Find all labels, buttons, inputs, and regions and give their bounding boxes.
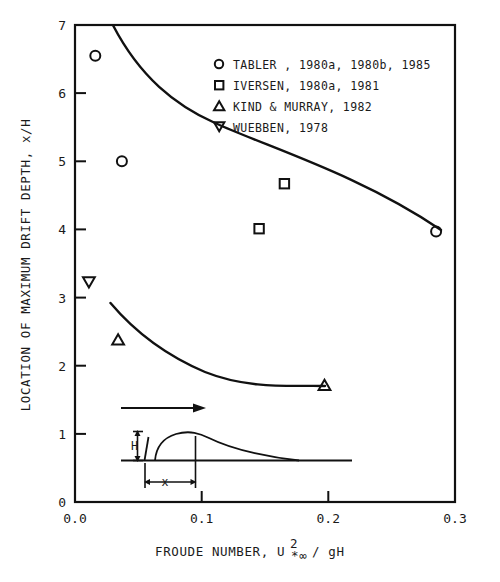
x-tick-label: 0.0	[63, 511, 86, 526]
x-axis-title-subscript: *∞	[291, 548, 307, 563]
y-tick-label: 6	[58, 86, 66, 101]
legend-label: IVERSEN, 1980a, 1981	[233, 79, 379, 93]
y-tick-label: 4	[58, 222, 66, 237]
x-axis-title-prefix: FROUDE NUMBER, U	[155, 544, 285, 559]
y-tick-label: 1	[58, 427, 66, 442]
inset-distance-label: x	[162, 475, 169, 489]
legend-label: WUEBBEN, 1978	[233, 121, 328, 135]
y-tick-labels: 0 1 2 3 4 5 6 7	[58, 18, 66, 510]
wind-arrow-head	[193, 404, 206, 413]
inset-drift-schematic: H x	[121, 404, 352, 490]
legend: TABLER , 1980a, 1980b, 1985 IVERSEN, 198…	[214, 58, 431, 135]
x-axis-title-suffix: / gH	[312, 544, 345, 559]
y-axis-title: LOCATION OF MAXIMUM DRIFT DEPTH, x/H	[18, 119, 33, 412]
y-tick-label: 7	[58, 18, 66, 33]
x-tick-label: 0.2	[317, 511, 340, 526]
legend-symbol-circle	[215, 60, 223, 68]
data-point-triangle-down	[83, 277, 95, 287]
drift-profile	[155, 432, 299, 460]
y-tick-label: 2	[58, 359, 66, 374]
data-point-square	[280, 179, 289, 188]
legend-symbol-square	[215, 81, 223, 89]
x-tick-label: 0.1	[190, 511, 213, 526]
data-point-circle	[90, 51, 100, 61]
legend-label: TABLER , 1980a, 1980b, 1985	[233, 58, 431, 72]
y-axis-ticks	[75, 25, 86, 502]
y-tick-label: 0	[58, 495, 66, 510]
legend-symbol-triangle-up	[214, 101, 224, 110]
data-point-circle	[117, 156, 127, 166]
plot-frame	[75, 25, 455, 502]
trend-curve-lower	[111, 303, 326, 386]
legend-label: KIND & MURRAY, 1982	[233, 100, 372, 114]
x-tick-label: 0.3	[443, 511, 466, 526]
chart-svg: 0 1 2 3 4 5 6 7 0.0 0.1 0.2 0.3 LOCATION…	[0, 0, 500, 582]
data-point-triangle-up	[112, 334, 124, 344]
x-tick-labels: 0.0 0.1 0.2 0.3	[63, 511, 466, 526]
x-axis-title: FROUDE NUMBER, U 2 *∞ / gH	[155, 536, 345, 563]
inset-height-label: H	[131, 439, 138, 453]
barrier	[145, 437, 149, 461]
x-axis-ticks	[75, 491, 455, 502]
y-tick-label: 3	[58, 291, 66, 306]
data-point-square	[254, 224, 263, 233]
figure-snow-drift-location: 0 1 2 3 4 5 6 7 0.0 0.1 0.2 0.3 LOCATION…	[0, 0, 500, 582]
y-tick-label: 5	[58, 154, 66, 169]
